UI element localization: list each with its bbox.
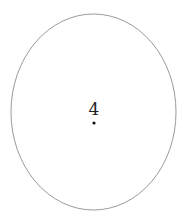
center-point xyxy=(92,121,95,124)
region-label: 4 xyxy=(89,99,100,119)
diagram-canvas: 4 xyxy=(0,0,187,223)
